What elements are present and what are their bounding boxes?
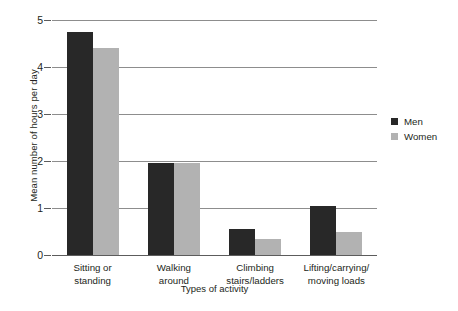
bar-women (93, 48, 119, 255)
bar-group (310, 20, 362, 255)
y-tick-mark-2 (44, 161, 51, 162)
bar-men (67, 32, 93, 255)
bar-group (148, 20, 200, 255)
bar-men (148, 163, 174, 255)
bar-men (310, 206, 336, 255)
bar-group (67, 20, 119, 255)
legend-item-women: Women (391, 129, 437, 144)
y-tick-label-2: 2 (37, 155, 43, 167)
y-tick-label-5: 5 (37, 14, 43, 26)
y-tick-mark-4 (44, 67, 51, 68)
x-axis-title: Types of activity (52, 283, 377, 294)
legend-swatch-women-icon (391, 133, 398, 140)
legend-item-men: Men (391, 114, 437, 129)
plot-area: 012345 Sitting or standingWalking around… (52, 20, 377, 255)
y-tick-mark-5 (44, 20, 51, 21)
y-tick-label-4: 4 (37, 61, 43, 73)
bar-women (336, 232, 362, 256)
y-tick-label-1: 1 (37, 202, 43, 214)
bar-men (229, 229, 255, 255)
bar-women (174, 163, 200, 255)
y-tick-label-3: 3 (37, 108, 43, 120)
bar-women (255, 239, 281, 255)
legend: Men Women (391, 114, 437, 144)
bar-group (229, 20, 281, 255)
y-tick-label-0: 0 (37, 249, 43, 261)
legend-label-women: Women (404, 131, 437, 142)
y-tick-mark-0 (44, 255, 51, 256)
legend-swatch-men-icon (391, 118, 398, 125)
y-tick-mark-3 (44, 114, 51, 115)
bar-chart: Mean number of hours per day 012345 Sitt… (0, 0, 458, 311)
legend-label-men: Men (404, 116, 423, 127)
gridline-0 (52, 255, 377, 256)
y-tick-mark-1 (44, 208, 51, 209)
